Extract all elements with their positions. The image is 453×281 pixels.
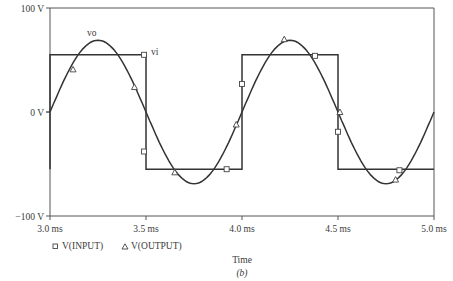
output-triangle-marker bbox=[131, 84, 137, 90]
chart: 100 V0 V−100 V 3.0 ms3.5 ms4.0 ms4.5 ms5… bbox=[0, 0, 453, 281]
figure-caption: (b) bbox=[236, 268, 247, 279]
legend: V(INPUT) V(OUTPUT) bbox=[53, 241, 182, 252]
legend-triangle-marker-icon bbox=[122, 244, 128, 249]
input-square-marker bbox=[240, 81, 245, 86]
axes bbox=[46, 8, 434, 216]
annotation-vi: vi bbox=[151, 47, 159, 57]
x-tick-label: 5.0 ms bbox=[421, 224, 447, 234]
annotation-vo: vo bbox=[87, 28, 97, 38]
y-tick-label: 0 V bbox=[30, 108, 44, 118]
legend-item-output: V(OUTPUT) bbox=[122, 241, 182, 252]
legend-item-input: V(INPUT) bbox=[53, 241, 103, 252]
input-square-marker bbox=[397, 168, 402, 173]
input-square-marker bbox=[336, 129, 341, 134]
legend-label-output: V(OUTPUT) bbox=[131, 241, 182, 252]
output-triangle-marker bbox=[281, 36, 287, 42]
input-square-marker bbox=[312, 53, 317, 58]
x-tick-label: 4.5 ms bbox=[325, 224, 351, 234]
x-tick-label: 4.0 ms bbox=[229, 224, 255, 234]
x-tick-label: 3.0 ms bbox=[37, 224, 63, 234]
y-tick-label: −100 V bbox=[15, 212, 44, 222]
input-square-marker bbox=[142, 52, 147, 57]
input-square-marker bbox=[224, 167, 229, 172]
y-tick-label: 100 V bbox=[21, 4, 44, 14]
x-axis-label: Time bbox=[232, 255, 252, 265]
x-tick-label: 3.5 ms bbox=[133, 224, 159, 234]
y-ticks: 100 V0 V−100 V bbox=[15, 4, 50, 222]
traces bbox=[50, 40, 434, 184]
input-square-marker bbox=[142, 149, 147, 154]
x-ticks: 3.0 ms3.5 ms4.0 ms4.5 ms5.0 ms bbox=[37, 216, 447, 234]
legend-label-input: V(INPUT) bbox=[62, 241, 103, 252]
legend-square-marker-icon bbox=[53, 244, 58, 249]
